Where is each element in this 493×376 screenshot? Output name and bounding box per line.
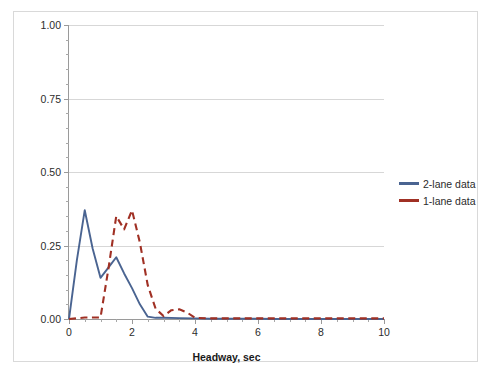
legend-swatch-icon (399, 182, 419, 185)
x-tick-label: 0 (66, 326, 72, 338)
x-tick-minor (179, 319, 180, 322)
legend-label: 1-lane data (423, 195, 476, 207)
y-tick-label: 0.00 (41, 313, 61, 325)
x-tick-minor (164, 319, 165, 322)
x-tick-minor (116, 319, 117, 322)
x-tick-label: 4 (192, 326, 198, 338)
x-tick-minor (85, 319, 86, 322)
x-tick-minor (101, 319, 102, 322)
chart-legend: 2-lane data1-lane data (399, 175, 477, 209)
y-tick-label: 0.25 (41, 240, 61, 252)
x-tick-major (132, 319, 133, 324)
y-tick-label: 0.50 (41, 166, 61, 178)
x-tick-label: 10 (378, 326, 390, 338)
x-tick-label: 6 (255, 326, 261, 338)
legend-label: 2-lane data (423, 178, 476, 190)
x-axis-title: Headway, sec (69, 351, 384, 363)
legend-item[interactable]: 1-lane data (399, 192, 477, 209)
plot-area: 0.000.250.500.751.00 0246810 (69, 25, 384, 319)
x-tick-label: 8 (318, 326, 324, 338)
y-axis-title: Proportion of total (22, 0, 36, 53)
legend-swatch-icon (399, 199, 419, 202)
legend-item[interactable]: 2-lane data (399, 175, 477, 192)
x-tick-major (384, 319, 385, 324)
x-tick-major (258, 319, 259, 324)
y-tick-label: 0.75 (41, 93, 61, 105)
series-line (69, 210, 384, 319)
series-plot (69, 25, 384, 319)
x-tick-major (195, 319, 196, 324)
x-tick-label: 2 (129, 326, 135, 338)
chart-figure: 0.000.250.500.751.00 0246810 Proportion … (13, 11, 478, 362)
series-line (69, 210, 384, 319)
x-tick-minor (148, 319, 149, 322)
y-tick-label: 1.00 (41, 19, 61, 31)
